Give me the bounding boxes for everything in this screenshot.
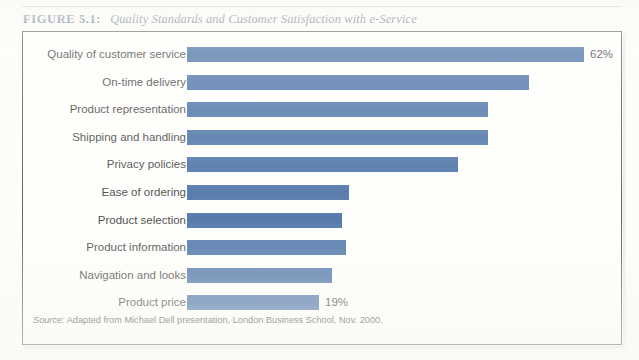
figure-page: FIGURE 5.1:Quality Standards and Custome… [0,0,639,360]
source-text: Adapted from Michael Dell presentation, … [67,315,383,325]
bar [187,157,458,172]
bar-row: Quality of customer service62% [23,41,623,69]
bar-row: Privacy policies [23,151,623,179]
bar [187,185,349,200]
figure-number-label: FIGURE 5.1: [23,12,101,26]
bar [187,75,529,90]
bar-row: On-time delivery [23,69,623,97]
source-prefix: Source: [33,315,65,325]
bar-row: Navigation and looks [23,262,623,290]
bar-category-label: On-time delivery [102,69,186,97]
figure-caption: FIGURE 5.1:Quality Standards and Custome… [23,8,623,28]
scan-shadow-right [623,33,627,347]
bar-category-label: Product representation [70,96,186,124]
bar-row: Ease of ordering [23,179,623,207]
bar-row: Product information [23,234,623,262]
bar-category-label: Product price [118,289,186,317]
bar-row: Product representation [23,96,623,124]
bar-category-label: Shipping and handling [72,124,186,152]
bar [187,240,346,255]
figure-title: Quality Standards and Customer Satisfact… [110,12,417,26]
bar [187,268,332,283]
bar-row: Product price19% [23,289,623,317]
bar-value-label: 19% [319,289,348,317]
scan-shadow-bottom [24,346,624,350]
chart-frame: Quality of customer service62%On-time de… [22,31,622,345]
source-note: Source: Adapted from Michael Dell presen… [33,315,383,325]
bar-row: Shipping and handling [23,124,623,152]
bar [187,295,319,310]
bar-category-label: Product selection [98,207,186,235]
bar-category-label: Product information [86,234,186,262]
bar-category-label: Privacy policies [107,151,186,179]
bar [187,102,488,117]
bar [187,130,488,145]
bar [187,47,584,62]
header-rule [22,6,622,7]
bar-row: Product selection [23,207,623,235]
bar [187,213,342,228]
bar-chart-plot-area: Quality of customer service62%On-time de… [23,32,623,308]
bar-category-label: Ease of ordering [102,179,186,207]
bar-category-label: Navigation and looks [79,262,186,290]
bar-category-label: Quality of customer service [47,41,186,69]
bar-value-label: 62% [584,41,613,69]
